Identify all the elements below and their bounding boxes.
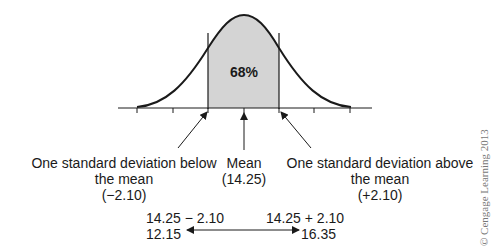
label-line: the mean xyxy=(265,171,495,187)
arrow-below xyxy=(178,112,207,148)
copyright-notice: © Cengage Learning 2013 xyxy=(478,129,490,246)
label-line: One standard deviation above xyxy=(265,155,495,171)
range-right-expression: 14.25 + 2.10 xyxy=(250,210,360,226)
normal-curve-diagram: 68% xyxy=(0,0,495,248)
range-left-expression: 14.25 − 2.10 xyxy=(130,210,240,226)
shaded-region xyxy=(208,15,279,108)
axis-ticks xyxy=(137,108,350,113)
arrow-above xyxy=(281,112,311,148)
range-left-value: 12.15 xyxy=(130,226,240,242)
label-value: (+2.10) xyxy=(265,187,495,203)
label-one-sd-above: One standard deviation above the mean (+… xyxy=(265,155,495,203)
percent-label: 68% xyxy=(230,64,259,80)
range-right: 14.25 + 2.10 16.35 xyxy=(250,210,360,242)
label-value: (−2.10) xyxy=(0,187,248,203)
range-right-value: 16.35 xyxy=(250,226,360,242)
range-left: 14.25 − 2.10 12.15 xyxy=(130,210,240,242)
